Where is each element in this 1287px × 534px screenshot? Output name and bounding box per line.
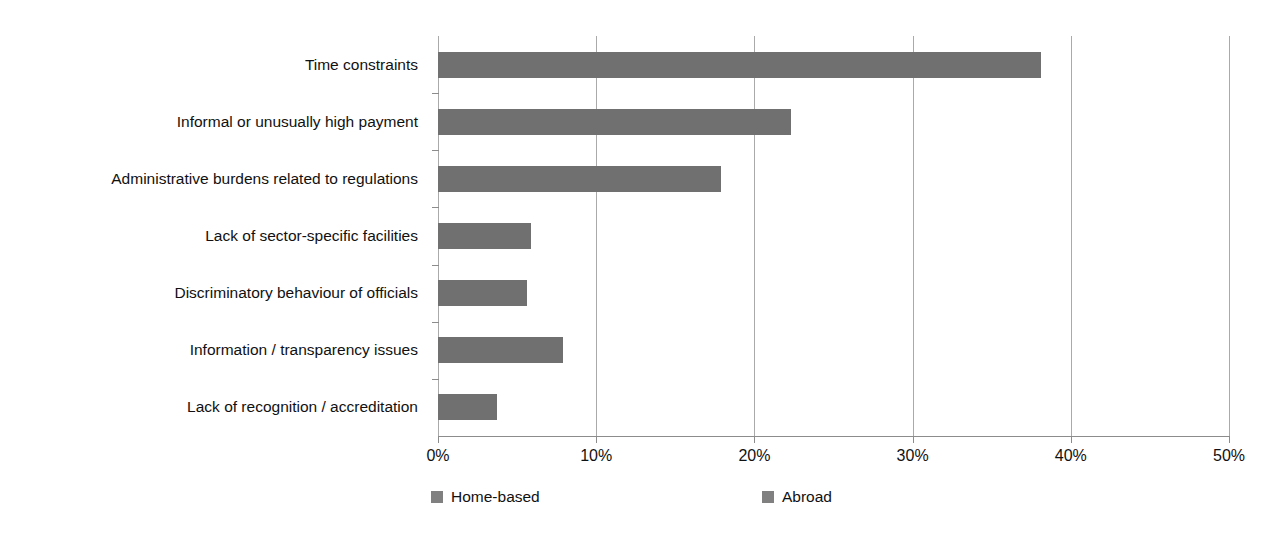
gridline [913,36,914,436]
legend-swatch-icon [762,491,774,503]
x-axis-line [438,436,1229,437]
legend-item[interactable]: Home-based [431,489,540,505]
x-axis-tick-label: 0% [426,448,449,464]
x-axis-tick-label: 30% [897,448,929,464]
category-label: Lack of sector-specific facilities [0,228,418,244]
x-axis-tick [596,436,597,443]
x-axis-tick-label: 10% [580,448,612,464]
bar [438,166,721,192]
y-axis-tick [432,379,439,380]
gridline [1229,36,1230,436]
y-axis-tick [432,207,439,208]
bar [438,394,497,420]
x-axis-tick [1071,436,1072,443]
bar [438,280,527,306]
category-label: Information / transparency issues [0,342,418,358]
category-label: Discriminatory behaviour of officials [0,285,418,301]
y-axis-tick [432,93,439,94]
bar [438,337,563,363]
category-label: Informal or unusually high payment [0,114,418,130]
x-axis-tick-label: 50% [1213,448,1245,464]
gridline [596,36,597,436]
category-axis-labels: Time constraintsInformal or unusually hi… [0,36,428,436]
legend-label: Abroad [782,489,832,505]
x-axis-tick [913,436,914,443]
legend-label: Home-based [451,489,540,505]
y-axis-tick [432,265,439,266]
category-label: Lack of recognition / accreditation [0,399,418,415]
gridline [1071,36,1072,436]
bar-chart: Time constraintsInformal or unusually hi… [0,0,1287,534]
bar [438,52,1041,78]
bar [438,109,791,135]
y-axis-tick [432,322,439,323]
x-axis-tick-label: 40% [1055,448,1087,464]
y-axis-tick [432,150,439,151]
x-axis-tick-label: 20% [738,448,770,464]
plot-area [438,36,1229,436]
category-label: Time constraints [0,57,418,73]
legend-item[interactable]: Abroad [762,489,832,505]
chart-legend: Home-basedAbroad [0,489,1287,513]
x-axis-tick [438,436,439,443]
legend-swatch-icon [431,491,443,503]
x-axis-tick [754,436,755,443]
gridline [754,36,755,436]
x-axis-tick [1229,436,1230,443]
category-label: Administrative burdens related to regula… [0,171,418,187]
bar [438,223,531,249]
x-axis-tick-labels: 0%10%20%30%40%50% [0,448,1287,472]
